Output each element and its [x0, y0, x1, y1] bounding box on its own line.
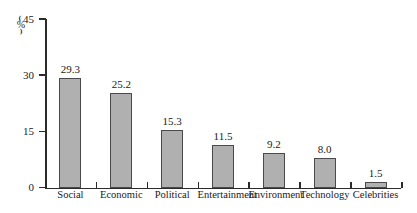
bar-chart: ⌣ % ⌢ 0153045 29.325.215.311.59.28.01.5 …	[0, 0, 417, 213]
bar-value-label: 11.5	[198, 131, 248, 142]
paren-bottom-decoration: ⌢	[16, 28, 27, 35]
y-axis-tick-label: 15	[0, 126, 34, 137]
x-axis-category-label: Economic	[96, 190, 147, 201]
bar	[161, 130, 183, 187]
bar	[110, 93, 132, 187]
bar	[59, 78, 81, 188]
x-axis-category-label: Celebrities	[350, 190, 401, 201]
bar	[212, 145, 234, 188]
bar-value-label: 29.3	[45, 64, 95, 75]
x-axis-tick	[401, 182, 403, 188]
x-axis-tick	[299, 182, 301, 188]
bar	[263, 153, 285, 187]
y-axis-tick	[39, 18, 46, 20]
x-axis-tick	[45, 182, 47, 188]
x-axis-tick	[248, 182, 250, 188]
x-axis-category-label: Social	[45, 190, 96, 201]
bar	[365, 182, 387, 188]
bar-value-label: 25.2	[96, 79, 146, 90]
bar-value-label: 8.0	[300, 144, 350, 155]
y-axis-tick-label: 45	[0, 14, 34, 25]
bar-value-label: 9.2	[249, 139, 299, 150]
y-axis-tick-label: 0	[0, 182, 34, 193]
x-axis-tick	[198, 182, 200, 188]
x-axis-category-label: Political	[147, 190, 198, 201]
x-axis-tick	[96, 182, 98, 188]
x-axis-tick	[147, 182, 149, 188]
y-axis-tick	[39, 131, 46, 133]
y-axis-line	[45, 19, 47, 189]
x-axis-category-label: Technology	[299, 190, 350, 201]
bar	[314, 158, 336, 188]
bar-value-label: 1.5	[351, 168, 401, 179]
bar-value-label: 15.3	[147, 116, 197, 127]
x-axis-category-label: Environment	[248, 190, 299, 201]
x-axis-category-label: Entertainment	[198, 190, 249, 201]
y-axis-tick-label: 30	[0, 70, 34, 81]
x-axis-tick	[350, 182, 352, 188]
